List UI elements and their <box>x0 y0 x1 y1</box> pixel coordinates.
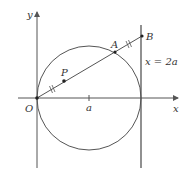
point-o <box>35 96 39 100</box>
point-p <box>62 79 66 83</box>
label-x-axis: x <box>173 103 179 114</box>
label-a: A <box>110 39 118 50</box>
point-a <box>113 50 116 53</box>
geometry-diagram: y x O P A B a x = 2a <box>0 0 191 181</box>
label-b: B <box>145 31 153 42</box>
label-a-tick: a <box>86 102 92 113</box>
label-y-axis: y <box>26 9 33 20</box>
label-origin: O <box>25 103 33 114</box>
line-ob <box>37 36 142 98</box>
point-b <box>140 34 143 37</box>
label-vertical-line: x = 2a <box>145 56 178 67</box>
label-p: P <box>60 67 68 78</box>
